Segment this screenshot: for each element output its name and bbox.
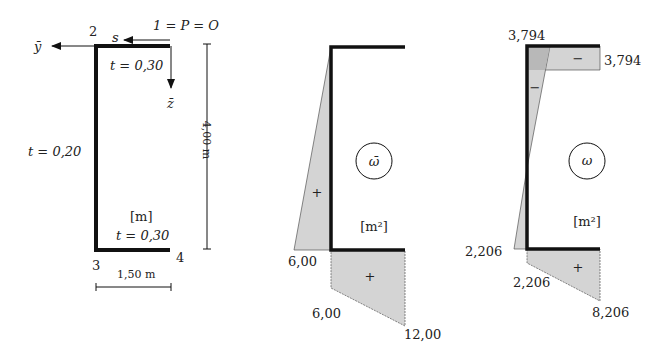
height-dimension-label: 4,00 m: [200, 121, 213, 160]
s-label: s: [112, 30, 119, 45]
web-thickness-label: t = 0,20: [28, 144, 81, 159]
cross-section-figure: 2 1 = P = O ȳ s z̄ t = 0,30 t = 0,20 [m]…: [28, 18, 219, 291]
top-right-value: 3,794: [604, 53, 641, 68]
web-bottom-value: 2,206: [465, 244, 502, 259]
unit-label: [m]: [130, 209, 152, 224]
point-2-label: 2: [89, 24, 97, 39]
web-positive-area: [514, 168, 527, 249]
top-left-value: 3,794: [508, 28, 545, 43]
flange-plus-sign: +: [365, 269, 376, 284]
y-axis-label: ȳ: [33, 39, 42, 54]
z-axis-label: z̄: [166, 96, 174, 111]
flange-plus-sign: +: [573, 260, 584, 275]
point-1-label: 1 = P = O: [153, 18, 219, 33]
flange-start-value: 2,206: [513, 275, 550, 290]
bottom-thickness-label: t = 0,30: [116, 228, 169, 243]
bottom-flange-area: [331, 250, 405, 326]
omega-bar-symbol: ω̄: [369, 154, 380, 169]
web-plus-sign: +: [312, 185, 323, 200]
point-3-label: 3: [92, 258, 100, 273]
unit-label: [m²]: [573, 214, 601, 229]
point-4-label: 4: [176, 250, 184, 265]
omega-symbol: ω: [582, 153, 593, 168]
omega-bar-diagram: ω̄ [m²] + + 6,00 6,00 12,00: [288, 47, 441, 342]
web-area: [294, 47, 331, 250]
top-thickness-label: t = 0,30: [110, 58, 163, 73]
flange-end-value: 8,206: [592, 305, 629, 320]
warping-diagrams: 2 1 = P = O ȳ s z̄ t = 0,30 t = 0,20 [m]…: [0, 0, 664, 364]
unit-label: [m²]: [360, 219, 388, 234]
web-minus-sign: −: [530, 80, 541, 95]
omega-diagram: ω [m²] − − + 3,794 3,794 2,206 2,206 8,2…: [465, 28, 641, 320]
flange-start-value: 6,00: [312, 306, 341, 321]
top-flange-minus-sign: −: [573, 51, 584, 66]
width-dimension-label: 1,50 m: [117, 268, 156, 281]
flange-end-value: 12,00: [404, 327, 441, 342]
web-bottom-value: 6,00: [288, 254, 317, 269]
